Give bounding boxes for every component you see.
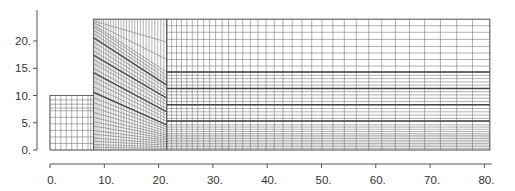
- mesh-chart: 0.5.10.15.20. 0.10.20.30.40.50.60.70.80.: [0, 0, 515, 191]
- mesh-region-right-block: [167, 19, 490, 150]
- x-tick-label: 30.: [207, 174, 223, 186]
- y-tick-label: 0.: [21, 144, 31, 156]
- mesh-line: [93, 22, 166, 59]
- mesh-line: [93, 141, 166, 145]
- x-tick-label: 80.: [478, 174, 494, 186]
- mesh-line: [93, 147, 166, 148]
- mesh-line: [93, 30, 166, 79]
- mesh-line: [93, 98, 166, 127]
- y-tick-label: 15.: [15, 62, 31, 74]
- mesh-line: [93, 60, 166, 102]
- x-tick-label: 10.: [98, 174, 114, 186]
- y-tick-label: 20.: [15, 35, 31, 47]
- mesh-region-wedge: [93, 19, 166, 150]
- x-axis: 0.10.20.30.40.50.60.70.80.: [47, 164, 494, 186]
- x-tick-label: 20.: [153, 174, 169, 186]
- x-tick-label: 0.: [47, 174, 57, 186]
- mesh-line: [93, 122, 166, 137]
- y-tick-label: 10.: [15, 90, 31, 102]
- mesh-line: [93, 112, 166, 133]
- x-tick-label: 50.: [316, 174, 332, 186]
- y-axis: 0.5.10.15.20.: [15, 10, 37, 156]
- x-tick-label: 40.: [261, 174, 277, 186]
- x-tick-label: 60.: [370, 174, 386, 186]
- mesh-line: [93, 27, 166, 76]
- mesh-line: [93, 46, 166, 91]
- x-tick-label: 70.: [424, 174, 440, 186]
- mesh-line: [93, 145, 166, 147]
- mesh-region-left-block: [50, 96, 93, 151]
- mesh-line: [93, 81, 166, 118]
- mesh-grid: [50, 19, 490, 150]
- y-tick-label: 5.: [21, 117, 31, 129]
- mesh-line: [93, 63, 166, 104]
- region-border: [167, 19, 490, 150]
